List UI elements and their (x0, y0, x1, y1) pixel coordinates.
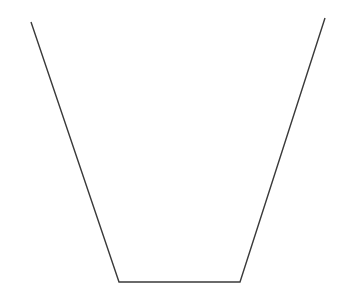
open-trapezoid-outline (31, 18, 325, 282)
diagram-canvas (0, 0, 341, 302)
trapezoid-diagram (0, 0, 341, 302)
